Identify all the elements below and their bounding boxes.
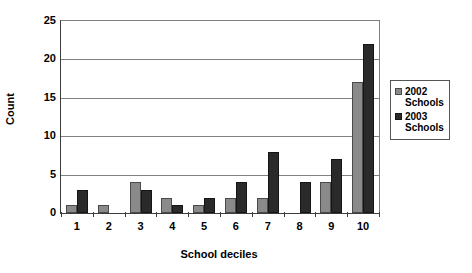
legend-item-2002: 2002Schools [395,86,446,109]
legend-item-2003: 2003Schools [395,111,446,134]
legend-year-label: 2003 [405,111,427,122]
legend-sub-label: Schools [395,122,446,134]
y-axis-title: Count [4,77,16,141]
legend-sub-label: Schools [395,97,446,109]
y-axis-tick-label: 25 [32,14,56,26]
gridline [61,136,379,137]
x-axis-tick-mark [188,212,189,217]
bar-chart-figure: Count 0510152025 12345678910 School deci… [0,0,472,273]
gridline [61,59,379,60]
legend-swatch-icon [395,113,402,120]
x-axis-tick-mark [252,212,253,217]
x-axis-tick-mark [220,212,221,217]
legend-year-label: 2002 [405,86,427,97]
y-axis-tick-label: 20 [32,52,56,64]
x-axis-tick-mark [347,212,348,217]
bar-2003-decile-3 [141,190,152,213]
plot-inner [61,21,379,213]
x-axis-tick-mark [93,212,94,217]
bar-2002-decile-7 [257,198,268,213]
legend-swatch-icon [395,88,402,95]
x-axis-title: School deciles [60,248,378,260]
x-axis-tick-mark [315,212,316,217]
legend-item-header: 2003 [395,111,446,122]
x-axis-tick-mark [284,212,285,217]
y-axis-tick-label: 5 [32,168,56,180]
bar-2003-decile-6 [236,182,247,213]
bar-2003-decile-1 [77,190,88,213]
gridline [61,98,379,99]
bar-2003-decile-7 [268,152,279,213]
y-axis-ticks: 0510152025 [28,20,56,212]
bar-2002-decile-10 [352,82,363,213]
bar-2003-decile-10 [363,44,374,213]
x-axis-ticks: 12345678910 [60,212,380,238]
bar-2003-decile-9 [331,159,342,213]
bar-2003-decile-8 [300,182,311,213]
legend-item-header: 2002 [395,86,446,97]
y-axis-tick-label: 0 [32,206,56,218]
chart-legend: 2002Schools2003Schools [390,80,450,140]
x-axis-tick-mark [379,212,380,217]
bar-2002-decile-9 [320,182,331,213]
y-axis-tick-label: 15 [32,91,56,103]
x-axis-tick-mark [61,212,62,217]
x-axis-tick-mark [156,212,157,217]
bar-2002-decile-4 [161,198,172,213]
plot-area [60,20,380,214]
x-axis-tick-mark [125,212,126,217]
x-axis-tick-label: 10 [343,220,383,232]
bar-2002-decile-3 [130,182,141,213]
bar-2002-decile-6 [225,198,236,213]
y-axis-tick-label: 10 [32,129,56,141]
bar-2003-decile-5 [204,198,215,213]
